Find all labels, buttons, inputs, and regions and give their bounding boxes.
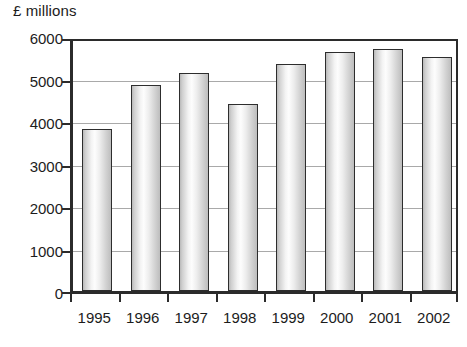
x-tick-label-1998: 1998 (216, 309, 265, 327)
x-tick-label-1996: 1996 (119, 309, 168, 327)
y-tick-label-6000: 6000 (5, 31, 63, 46)
x-tick-5 (313, 294, 315, 302)
y-tick-label-1000: 1000 (5, 244, 63, 259)
y-tick-label-2000: 2000 (5, 201, 63, 216)
x-tick-0 (70, 294, 72, 302)
y-tick-label-0: 0 (5, 286, 63, 301)
bar-1998 (228, 104, 258, 291)
x-tick-label-2002: 2002 (410, 309, 459, 327)
x-tick-4 (264, 294, 266, 302)
x-tick-8 (456, 294, 458, 302)
y-axis-title: £ millions (13, 2, 77, 19)
x-tick-6 (361, 294, 363, 302)
bar-series (73, 41, 456, 291)
x-tick-label-1997: 1997 (167, 309, 216, 327)
x-tick-7 (410, 294, 412, 302)
x-axis-ticks (70, 294, 458, 303)
x-tick-2 (167, 294, 169, 302)
y-tick-label-5000: 5000 (5, 74, 63, 89)
bar-1997 (179, 73, 209, 291)
y-tick-label-3000: 3000 (5, 159, 63, 174)
bar-1996 (131, 85, 161, 291)
bar-2002 (422, 57, 452, 291)
x-tick-3 (216, 294, 218, 302)
x-axis-tick-labels: 19951996199719981999200020012002 (70, 309, 458, 333)
x-tick-label-2001: 2001 (361, 309, 410, 327)
bar-1995 (82, 129, 112, 291)
x-tick-label-1995: 1995 (70, 309, 119, 327)
x-tick-label-2000: 2000 (313, 309, 362, 327)
plot-area (70, 39, 458, 294)
bar-1999 (276, 64, 306, 291)
y-tick-label-4000: 4000 (5, 116, 63, 131)
bar-chart: £ millions 6000 5000 4000 3000 2000 1000… (0, 0, 467, 347)
bar-2001 (373, 49, 403, 291)
bar-2000 (325, 52, 355, 291)
x-tick-1 (119, 294, 121, 302)
x-tick-label-1999: 1999 (264, 309, 313, 327)
y-axis-tick-labels: 6000 5000 4000 3000 2000 1000 0 (0, 39, 63, 294)
